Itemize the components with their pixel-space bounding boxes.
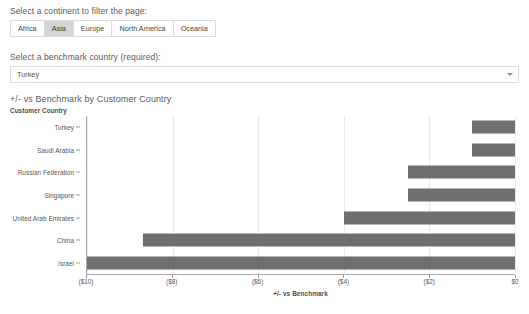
- y-axis-labels: TurkeySaudi ArabiaRussian FederationSing…: [10, 116, 80, 274]
- x-axis-tick-label: ($8): [166, 278, 177, 285]
- x-axis-tick-label: ($10): [79, 278, 94, 285]
- continent-button-oceania[interactable]: Oceania: [174, 21, 215, 36]
- chevron-down-icon: [507, 73, 513, 76]
- y-axis-tick: [76, 262, 80, 263]
- benchmark-select-block: Select a benchmark country (required): T…: [10, 52, 519, 83]
- bar-turkey[interactable]: [472, 121, 515, 134]
- y-axis-title: Customer Country: [10, 107, 519, 114]
- plot-region: TurkeySaudi ArabiaRussian FederationSing…: [10, 116, 519, 274]
- bar-singapore[interactable]: [408, 189, 515, 202]
- gridline: [173, 116, 174, 274]
- x-axis-tick-label: ($6): [252, 278, 263, 285]
- plot-area: [86, 116, 515, 274]
- gridline: [344, 116, 345, 274]
- bar-united-arab-emirates[interactable]: [344, 211, 515, 224]
- y-axis-tick: [76, 240, 80, 241]
- bar-russian-federation[interactable]: [408, 166, 515, 179]
- benchmark-select-value: Turkey: [11, 67, 39, 82]
- gridline: [87, 116, 88, 274]
- y-axis-tick: [76, 172, 80, 173]
- y-axis-label-turkey: Turkey: [54, 124, 74, 131]
- continent-button-asia[interactable]: Asia: [45, 21, 74, 36]
- x-axis-ticks: ($10)($8)($6)($4)($2)$0: [86, 275, 515, 287]
- continent-filter-label: Select a continent to filter the page:: [10, 6, 216, 16]
- bar-israel[interactable]: [87, 256, 515, 269]
- y-axis-label-saudi-arabia: Saudi Arabia: [37, 146, 74, 153]
- chart-container: +/- vs Benchmark by Customer Country Cus…: [10, 94, 519, 274]
- continent-button-europe[interactable]: Europe: [74, 21, 113, 36]
- y-axis-tick: [76, 127, 80, 128]
- y-axis-tick: [76, 217, 80, 218]
- continent-button-north-america[interactable]: North America: [112, 21, 173, 36]
- x-axis-tick-label: $0: [511, 278, 518, 285]
- x-axis-title: +/- vs Benchmark: [86, 290, 515, 297]
- benchmark-select-label: Select a benchmark country (required):: [10, 52, 519, 62]
- x-axis-tick-label: ($2): [424, 278, 435, 285]
- gridline: [258, 116, 259, 274]
- x-axis-tick-label: ($4): [338, 278, 349, 285]
- benchmark-country-select[interactable]: Turkey: [10, 66, 519, 83]
- y-axis-tick: [76, 195, 80, 196]
- bar-saudi-arabia[interactable]: [472, 143, 515, 156]
- bar-china[interactable]: [143, 234, 515, 247]
- continent-button-group[interactable]: AfricaAsiaEuropeNorth AmericaOceania: [10, 20, 216, 37]
- continent-filter-block: Select a continent to filter the page: A…: [10, 6, 216, 37]
- gridline: [515, 116, 516, 274]
- y-axis-label-israel: Israel: [58, 259, 74, 266]
- y-axis-label-russian-federation: Russian Federation: [18, 169, 74, 176]
- y-axis-label-united-arab-emirates: United Arab Emirates: [13, 214, 74, 221]
- continent-button-africa[interactable]: Africa: [11, 21, 45, 36]
- y-axis-label-singapore: Singapore: [44, 192, 74, 199]
- y-axis-label-china: China: [57, 237, 74, 244]
- chart-title: +/- vs Benchmark by Customer Country: [10, 94, 519, 104]
- y-axis-tick: [76, 149, 80, 150]
